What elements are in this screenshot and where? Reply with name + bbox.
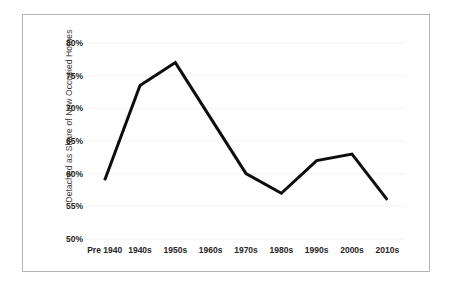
- line-chart-svg: [87, 43, 405, 239]
- plot-area: [87, 43, 405, 239]
- x-axis-tick-label: 2010s: [376, 245, 400, 255]
- y-axis-tick-label: 70%: [66, 103, 83, 113]
- y-axis-tick-label: 60%: [66, 169, 83, 179]
- x-axis-tick-label: Pre 1940: [87, 245, 122, 255]
- x-axis-tick-label: 1980s: [270, 245, 294, 255]
- x-axis-tick-label: 1960s: [199, 245, 223, 255]
- y-axis-tick-label: 55%: [66, 201, 83, 211]
- data-series-line: [105, 63, 388, 200]
- gridlines: [87, 43, 405, 239]
- chart-frame: Detached as Share of New Occupied Homes …: [22, 14, 430, 272]
- x-axis-tick-label: 1970s: [234, 245, 258, 255]
- y-axis-tick-labels: 50%55%60%65%70%75%80%: [45, 43, 83, 239]
- x-axis-tick-label: 2000s: [340, 245, 364, 255]
- y-axis-tick-label: 75%: [66, 71, 83, 81]
- x-axis-tick-label: 1990s: [305, 245, 329, 255]
- x-axis-tick-labels: Pre 19401940s1950s1960s1970s1980s1990s20…: [87, 245, 405, 261]
- y-axis-tick-label: 80%: [66, 38, 83, 48]
- y-axis-tick-label: 65%: [66, 136, 83, 146]
- y-axis-tick-label: 50%: [66, 234, 83, 244]
- x-axis-tick-label: 1940s: [128, 245, 152, 255]
- x-axis-tick-label: 1950s: [164, 245, 188, 255]
